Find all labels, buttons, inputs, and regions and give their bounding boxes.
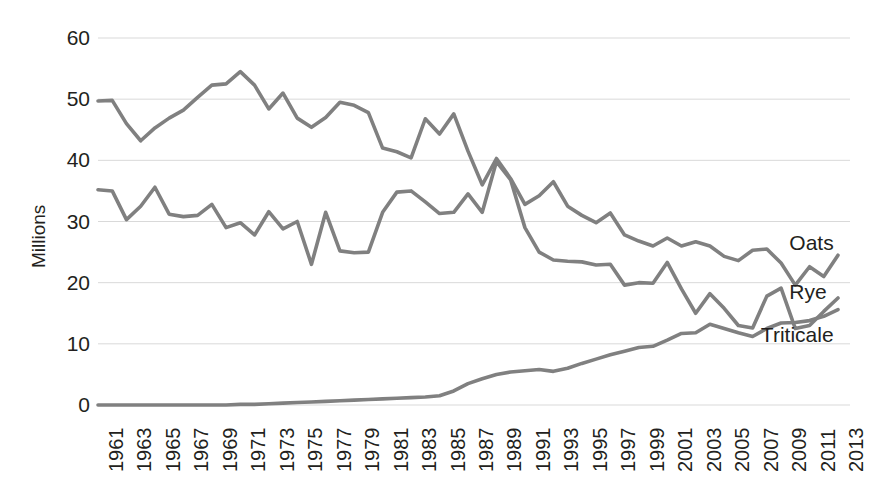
x-tick-label: 1981 <box>391 428 411 473</box>
series-label-triticale: Triticale <box>761 324 834 345</box>
x-tick-label: 2011 <box>818 429 838 472</box>
series-label-oats: Oats <box>789 232 833 253</box>
x-tick-label: 1967 <box>191 428 211 473</box>
x-tick-label: 1985 <box>448 428 468 473</box>
x-tick-label: 1993 <box>561 428 581 473</box>
x-tick-label: 1987 <box>476 428 496 473</box>
x-tick-label: 1991 <box>533 428 553 473</box>
x-tick-label: 1999 <box>647 428 667 473</box>
x-axis-tick-labels: 1961196319651967196919711973197519771979… <box>0 0 877 491</box>
x-tick-label: 2003 <box>704 428 724 473</box>
x-tick-label: 1963 <box>134 428 154 473</box>
x-tick-label: 2009 <box>789 428 809 473</box>
x-tick-label: 1977 <box>334 428 354 473</box>
x-tick-label: 2007 <box>761 428 781 473</box>
x-tick-label: 2005 <box>732 428 752 473</box>
x-tick-label: 1997 <box>618 428 638 473</box>
x-tick-label: 1989 <box>504 428 524 473</box>
x-tick-label: 2001 <box>675 428 695 473</box>
x-tick-label: 1965 <box>163 428 183 473</box>
line-chart: Millions 6050403020100 19611963196519671… <box>0 0 877 491</box>
x-tick-label: 1961 <box>106 428 126 473</box>
x-tick-label: 1969 <box>220 428 240 473</box>
x-tick-label: 1973 <box>277 428 297 473</box>
series-label-rye: Rye <box>789 281 826 302</box>
x-tick-label: 1971 <box>248 428 268 473</box>
x-tick-label: 1983 <box>419 428 439 473</box>
x-tick-label: 2013 <box>846 428 866 473</box>
x-tick-label: 1995 <box>590 428 610 473</box>
x-tick-label: 1979 <box>362 428 382 473</box>
x-tick-label: 1975 <box>305 428 325 473</box>
